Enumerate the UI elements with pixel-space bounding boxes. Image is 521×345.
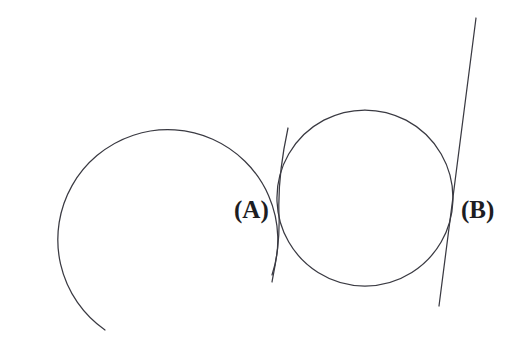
geometry-figure-canvas: (A) (B) bbox=[0, 0, 521, 345]
point-label-b: (B) bbox=[461, 197, 494, 222]
large-circle bbox=[58, 130, 278, 330]
geometry-figure-svg bbox=[0, 0, 521, 345]
tangent-line-b bbox=[439, 18, 476, 306]
point-label-a: (A) bbox=[234, 197, 269, 222]
small-circle bbox=[277, 110, 453, 286]
tangent-line-a bbox=[272, 128, 288, 282]
